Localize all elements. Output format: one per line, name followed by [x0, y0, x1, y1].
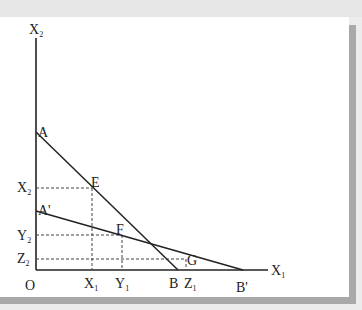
x-tick-z1: Z1 [184, 276, 197, 293]
point-A-prime-label: A' [38, 203, 51, 218]
point-B-prime-label: B' [236, 280, 248, 295]
y-axis-label: X2 [29, 22, 43, 39]
point-F-label: F [116, 222, 124, 237]
x-tick-x1: X1 [84, 276, 98, 293]
y-tick-y2: Y2 [17, 228, 31, 245]
x-tick-y1: Y1 [115, 276, 129, 293]
origin-label: O [25, 278, 35, 293]
y-tick-x2: X2 [17, 180, 31, 197]
budget-line-diagram: X2 X1 O A A' E F G B B' X2 Y2 Z2 X1 Y1 Z… [0, 0, 362, 310]
point-G-label: G [187, 253, 197, 268]
point-B-label: B [169, 276, 178, 291]
x-axis-label: X1 [271, 263, 285, 280]
point-A-label: A [38, 125, 49, 140]
y-tick-z2: Z2 [17, 251, 30, 268]
line-A-prime-B-prime [36, 211, 243, 270]
line-AB [36, 132, 178, 270]
point-E-label: E [91, 175, 100, 190]
